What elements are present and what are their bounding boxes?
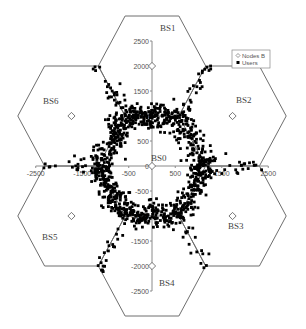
bs1-label: BS1 (160, 23, 176, 33)
y-tick-label: 2000 (133, 63, 149, 70)
node-b-diamond-icon (229, 212, 236, 219)
y-tick-label: 500 (137, 138, 149, 145)
y-tick-label: -2500 (131, 288, 149, 295)
node-b-diamond-icon (68, 112, 75, 119)
node-b-diamond-icon (148, 262, 155, 269)
y-tick-label: -2000 (131, 263, 149, 270)
y-tick-label: -500 (135, 188, 149, 195)
node-b-diamond-icon (148, 162, 155, 169)
scatter-chart: -2500-1500-50050015002500250020001500100… (0, 0, 306, 329)
node-b-diamond-icon (148, 62, 155, 69)
bs5-label: BS5 (42, 232, 58, 242)
bs6-label: BS6 (43, 96, 59, 106)
x-tick-label: -500 (122, 170, 136, 177)
bs4-label: BS4 (159, 278, 175, 288)
legend: Nodes B Users (232, 50, 270, 68)
y-tick-label: -1500 (131, 238, 149, 245)
legend-nodes-label: Nodes B (242, 53, 265, 59)
bs0-label: BS0 (151, 153, 167, 163)
bs2-label: BS2 (236, 95, 252, 105)
y-tick-label: 2500 (133, 38, 149, 45)
x-tick-label: 500 (169, 170, 181, 177)
x-tick-label: -2500 (27, 170, 45, 177)
node-b-diamond-icon (68, 212, 75, 219)
node-b-diamond-icon (229, 112, 236, 119)
y-tick-label: 1500 (133, 88, 149, 95)
bs3-label: BS3 (228, 221, 244, 231)
legend-square-icon (237, 61, 240, 64)
legend-users-label: Users (242, 60, 258, 66)
